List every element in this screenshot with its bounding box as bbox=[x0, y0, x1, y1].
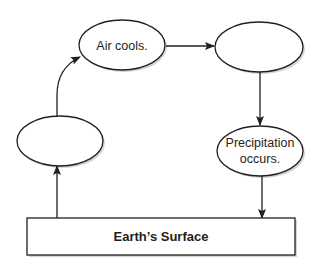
node-blank-left bbox=[17, 116, 103, 166]
node-earths-surface: Earth’s Surface bbox=[27, 218, 295, 255]
node-blank-top-right bbox=[215, 22, 303, 72]
surface-label: Earth’s Surface bbox=[114, 229, 209, 244]
node-air-cools: Air cools. bbox=[79, 20, 165, 70]
node-label-line-1: Precipitation bbox=[226, 136, 295, 150]
water-cycle-diagram: Air cools. Precipitation occurs. Earth’s… bbox=[0, 0, 320, 269]
diagram-svg: Air cools. Precipitation occurs. Earth’s… bbox=[0, 0, 320, 269]
arrow-left-to-air-cools bbox=[57, 57, 80, 116]
node-label: Air cools. bbox=[96, 39, 147, 53]
node-precipitation: Precipitation occurs. bbox=[217, 126, 303, 176]
node-label-line-2: occurs. bbox=[240, 152, 280, 166]
